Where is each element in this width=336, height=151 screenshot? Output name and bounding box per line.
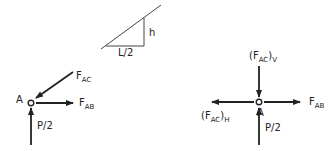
fac-arrow	[36, 72, 73, 98]
joint-a-label: A	[257, 107, 264, 118]
height-label: h	[149, 27, 155, 38]
fab-label: FAB	[309, 96, 325, 110]
fac-v-label: (FAC)V	[249, 50, 277, 64]
fac-h-label: (FAC)H	[201, 110, 229, 124]
joint-a-label: A	[16, 94, 23, 105]
geometry-inset: h L/2	[101, 5, 161, 58]
truss-joint-diagram: h L/2 A FAC FAB P/2 A (FAC)V (FAC)H FAB …	[0, 0, 336, 151]
p-half-label: P/2	[37, 120, 53, 131]
p-half-label: P/2	[265, 122, 281, 133]
base-label: L/2	[118, 47, 133, 58]
fab-label: FAB	[79, 97, 95, 111]
fac-label: FAC	[76, 70, 91, 84]
joint-a-node	[256, 99, 262, 105]
joint-a-node	[28, 100, 34, 106]
right-free-body-diagram: A (FAC)V (FAC)H FAB P/2	[201, 50, 325, 145]
left-free-body-diagram: A FAC FAB P/2	[16, 70, 95, 145]
